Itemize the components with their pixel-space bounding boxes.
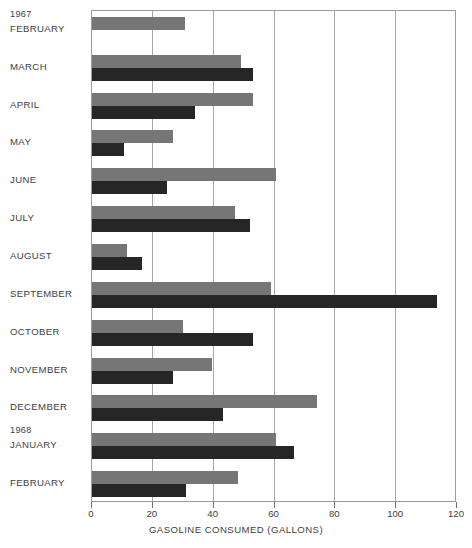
x-tick-label-120: 120 (448, 508, 464, 519)
bar-upper-march-1967 (92, 55, 241, 68)
year-label-1968: 1968 (10, 425, 32, 436)
x-tick-label-80: 80 (329, 508, 340, 519)
gridline-60 (274, 11, 275, 501)
bar-lower-may-1967 (92, 143, 124, 156)
month-label-november-1967: NOVEMBER (10, 364, 94, 375)
bar-upper-november-1967 (92, 358, 212, 371)
month-label-february-1967: FEBRUARY (10, 23, 94, 34)
x-tick-label-60: 60 (268, 508, 279, 519)
bar-lower-february-1968 (92, 484, 186, 497)
bar-upper-august-1967 (92, 244, 127, 257)
bar-lower-july-1967 (92, 219, 250, 232)
bar-lower-september-1967 (92, 295, 437, 308)
month-label-may-1967: MAY (10, 136, 94, 147)
bar-lower-august-1967 (92, 257, 142, 270)
bar-lower-january-1968 (92, 446, 294, 459)
month-label-march-1967: MARCH (10, 61, 94, 72)
month-label-september-1967: SEPTEMBER (10, 288, 94, 299)
gasoline-consumption-bar-chart: FEBRUARYMARCHAPRILMAYJUNEJULYAUGUSTSEPTE… (0, 0, 472, 548)
x-tick-label-100: 100 (387, 508, 403, 519)
bar-upper-september-1967 (92, 282, 271, 295)
bar-lower-april-1967 (92, 106, 195, 119)
plot-area (91, 10, 456, 502)
month-label-october-1967: OCTOBER (10, 326, 94, 337)
bar-lower-june-1967 (92, 181, 167, 194)
bar-upper-july-1967 (92, 206, 235, 219)
gridline-100 (395, 11, 396, 501)
month-label-august-1967: AUGUST (10, 250, 94, 261)
x-tick-label-0: 0 (88, 508, 93, 519)
bar-lower-november-1967 (92, 371, 173, 384)
bar-upper-june-1967 (92, 168, 276, 181)
month-label-january-1968: JANUARY (10, 439, 94, 450)
gridline-80 (334, 11, 335, 501)
bar-upper-may-1967 (92, 130, 173, 143)
bar-upper-january-1968 (92, 433, 276, 446)
x-tick-label-20: 20 (146, 508, 157, 519)
month-label-july-1967: JULY (10, 212, 94, 223)
bar-upper-april-1967 (92, 93, 253, 106)
month-label-column: FEBRUARYMARCHAPRILMAYJUNEJULYAUGUSTSEPTE… (0, 0, 91, 548)
month-label-february-1968: FEBRUARY (10, 477, 94, 488)
bar-lower-march-1967 (92, 68, 253, 81)
year-label-1967: 1967 (10, 9, 32, 20)
bar-upper-february-1968 (92, 471, 238, 484)
bar-upper-october-1967 (92, 320, 183, 333)
month-label-june-1967: JUNE (10, 174, 94, 185)
bar-lower-december-1967 (92, 408, 223, 421)
bar-upper-february-1967 (92, 17, 185, 30)
gridline-40 (213, 11, 214, 501)
bar-upper-december-1967 (92, 395, 317, 408)
x-axis-title: GASOLINE CONSUMED (GALLONS) (0, 524, 472, 535)
gridline-20 (152, 11, 153, 501)
month-label-april-1967: APRIL (10, 99, 94, 110)
month-label-december-1967: DECEMBER (10, 401, 94, 412)
x-tick-label-40: 40 (207, 508, 218, 519)
bar-lower-october-1967 (92, 333, 253, 346)
